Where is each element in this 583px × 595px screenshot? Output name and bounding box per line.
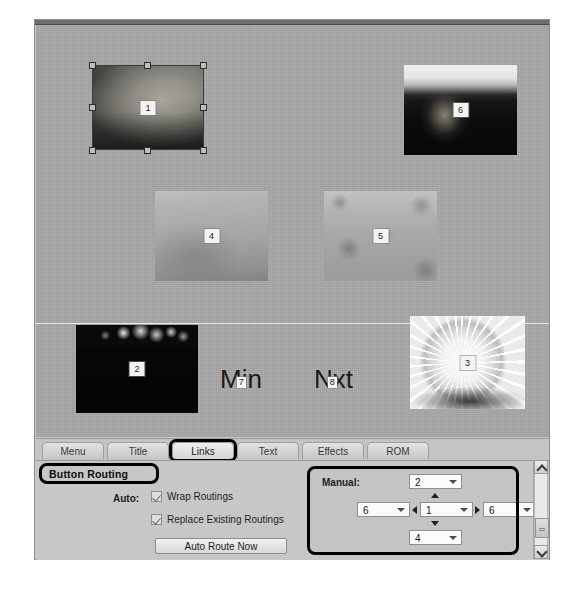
replace-existing-routings-label: Replace Existing Routings [167,514,284,525]
arrow-down-icon [431,521,439,526]
manual-left-value: 6 [363,504,369,517]
resize-handle-w[interactable] [89,104,96,111]
replace-existing-routings-checkbox[interactable] [151,514,162,525]
resize-handle-ne[interactable] [200,62,207,69]
button-routing-title: Button Routing [49,468,128,480]
chevron-down-icon [397,508,405,512]
button-routing-options-panel: Button Routing Auto: Wrap Routings Repla… [36,460,549,560]
thumbnail-2-badge: 2 [130,362,145,376]
chevron-down-icon [523,508,531,512]
grip-icon [539,527,545,531]
auto-label: Auto: [113,493,139,504]
tab-effects[interactable]: Effects [302,442,364,459]
manual-right-value: 6 [489,504,495,517]
thumbnail-4-badge: 4 [204,229,219,243]
thumbnail-1-badge: 1 [141,101,156,115]
options-scrollbar[interactable] [533,460,548,559]
arrow-right-icon [475,506,480,514]
tab-strip: Menu Title Links Text Effects ROM [36,438,549,461]
manual-right-select[interactable]: 6 [483,502,536,517]
main-text-button[interactable]: M7in [220,364,262,395]
resize-handle-e[interactable] [200,104,207,111]
manual-down-value: 4 [415,532,421,545]
next-text-badge: 8 [328,377,337,388]
wrap-routings-checkbox[interactable] [151,491,162,502]
tab-links[interactable]: Links [172,442,234,459]
tab-title[interactable]: Title [107,442,169,459]
resize-handle-n[interactable] [144,62,151,69]
auto-route-now-button[interactable]: Auto Route Now [155,538,287,554]
thumbnail-3[interactable]: 3 [410,316,525,409]
wrap-routings-label: Wrap Routings [167,491,233,502]
thumbnail-3-badge: 3 [460,356,475,370]
scrollbar-thumb[interactable] [535,518,549,538]
arrow-up-icon [431,493,439,498]
chevron-down-icon [449,480,457,484]
tab-text[interactable]: Text [237,442,299,459]
manual-label: Manual: [322,477,360,488]
thumbnail-5-badge: 5 [373,229,388,243]
next-text-button[interactable]: N8xt [314,364,353,395]
screenshot-root: 1 6 4 [0,0,583,595]
thumbnail-4[interactable]: 4 [155,191,268,281]
application-window: 1 6 4 [34,19,550,560]
resize-handle-sw[interactable] [89,147,96,154]
manual-up-select[interactable]: 2 [409,474,462,489]
manual-left-select[interactable]: 6 [357,502,410,517]
thumbnail-6-badge: 6 [453,103,468,117]
chevron-down-icon [536,546,547,557]
scroll-down-button[interactable] [534,545,548,559]
thumbnail-6[interactable]: 6 [404,65,517,155]
thumbnail-2[interactable]: 2 [76,325,198,413]
manual-center-select[interactable]: 1 [420,502,473,517]
chevron-down-icon [460,508,468,512]
manual-routing-group: Manual: 2 6 1 6 [310,469,516,552]
resize-handle-se[interactable] [200,147,207,154]
wrap-routings-row[interactable]: Wrap Routings [151,491,233,502]
manual-down-select[interactable]: 4 [409,530,462,545]
main-text-badge: 7 [237,377,246,388]
resize-handle-s[interactable] [144,147,151,154]
manual-up-value: 2 [415,476,421,489]
tab-menu[interactable]: Menu [42,442,104,459]
scrollbar-track[interactable] [534,474,548,545]
chevron-down-icon [449,536,457,540]
scroll-up-button[interactable] [534,460,548,474]
thumbnail-1[interactable]: 1 [92,65,204,150]
tab-rom[interactable]: ROM [367,442,429,459]
thumbnail-5[interactable]: 5 [324,191,437,281]
arrow-left-icon [412,506,417,514]
resize-handle-nw[interactable] [89,62,96,69]
replace-existing-routings-row[interactable]: Replace Existing Routings [151,514,284,525]
manual-center-value: 1 [426,504,432,517]
menu-preview-canvas[interactable]: 1 6 4 [36,25,549,437]
